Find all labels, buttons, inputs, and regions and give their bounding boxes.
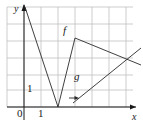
origin-tick-label: 0 (17, 108, 23, 119)
curve-g (73, 48, 141, 103)
curve-label-f: f (63, 25, 66, 36)
x-axis (7, 104, 136, 109)
x-tick-label-1: 1 (38, 108, 44, 119)
curve-f (25, 7, 141, 107)
y-axis-label: y (14, 4, 18, 14)
graph-figure: y x 0 1 1 f g (0, 0, 143, 127)
curve-label-g: g (74, 71, 80, 82)
y-axis (22, 4, 27, 120)
grid-vertical-lines (7, 7, 126, 107)
y-tick-label-1: 1 (27, 83, 33, 94)
x-axis-label: x (132, 112, 136, 122)
x-axis-arrowhead (130, 104, 136, 109)
